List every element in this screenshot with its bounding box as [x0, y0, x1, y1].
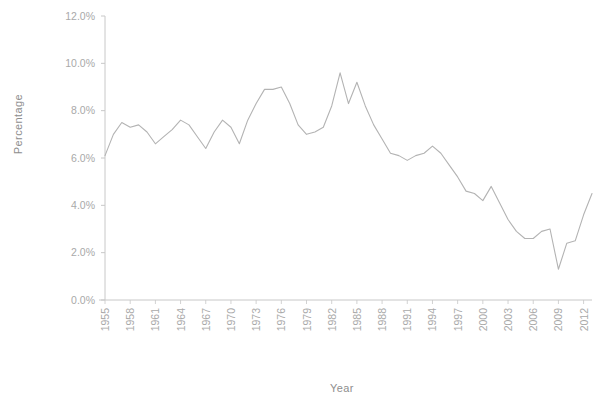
x-axis-tick-label: 1961 — [149, 308, 161, 332]
x-axis-tick-label: 2012 — [578, 308, 590, 332]
x-axis-tick-label: 1967 — [200, 308, 212, 332]
x-axis-tick-label: 2009 — [552, 308, 564, 332]
y-axis-tick-label: 12.0% — [65, 10, 95, 22]
y-axis-tick-label: 6.0% — [71, 152, 95, 164]
x-axis-tick-label: 1994 — [426, 308, 438, 332]
x-axis-tick-label: 1964 — [175, 308, 187, 332]
y-axis-tick-label: 8.0% — [71, 104, 95, 116]
x-axis-tick-label: 2003 — [502, 308, 514, 332]
x-axis-tick-label: 1982 — [326, 308, 338, 332]
y-axis-tick-label: 2.0% — [71, 246, 95, 258]
x-axis-tick-label: 2006 — [527, 308, 539, 332]
y-axis-tick-group: 12.0%10.0%8.0%6.0%4.0%2.0%0.0% — [65, 10, 105, 306]
y-axis-tick-label: 4.0% — [71, 199, 95, 211]
x-axis-tick-label: 1991 — [401, 308, 413, 332]
x-axis-tick-label: 1985 — [351, 308, 363, 332]
line-chart: Percentage Year 12.0%10.0%8.0%6.0%4.0%2.… — [0, 0, 609, 414]
data-series-line — [105, 73, 592, 269]
plot-area: 12.0%10.0%8.0%6.0%4.0%2.0%0.0% 195519581… — [0, 0, 609, 414]
x-axis-tick-label: 1988 — [376, 308, 388, 332]
x-axis-tick-label: 2000 — [477, 308, 489, 332]
x-axis-tick-label: 1973 — [250, 308, 262, 332]
x-axis-tick-label: 1997 — [452, 308, 464, 332]
x-axis-tick-group: 1955195819611964196719701973197619791982… — [99, 300, 590, 331]
x-axis-tick-label: 1976 — [275, 308, 287, 332]
y-axis-tick-label: 10.0% — [65, 57, 95, 69]
x-axis-tick-label: 1970 — [225, 308, 237, 332]
x-axis-tick-label: 1958 — [124, 308, 136, 332]
x-axis-tick-label: 1955 — [99, 308, 111, 332]
y-axis-tick-label: 0.0% — [71, 294, 95, 306]
x-axis-tick-label: 1979 — [301, 308, 313, 332]
